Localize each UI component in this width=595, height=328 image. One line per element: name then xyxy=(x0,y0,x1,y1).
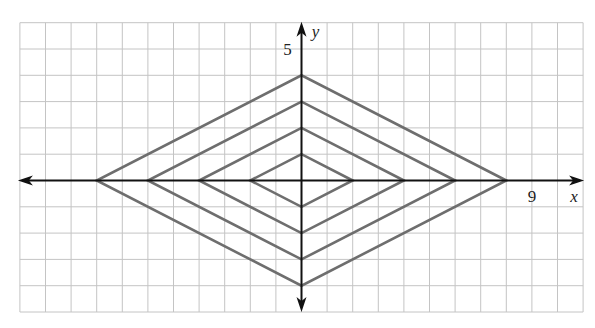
x-axis-label: x xyxy=(569,187,578,206)
y-axis-label: y xyxy=(310,22,320,41)
y-tick-label-5: 5 xyxy=(283,40,292,59)
x-tick-label-9: 9 xyxy=(528,187,537,206)
axes xyxy=(18,22,584,312)
coordinate-plane: 5 y 9 x xyxy=(0,0,595,328)
